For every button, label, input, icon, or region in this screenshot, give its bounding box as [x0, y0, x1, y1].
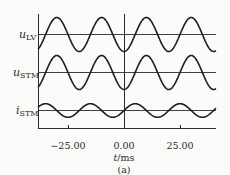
series-label-u-stm: uSTM [13, 67, 39, 80]
x-tick-label: 25.00 [166, 140, 193, 151]
x-tick-label: −25.00 [50, 140, 85, 151]
series-label-i-stm: iSTM [16, 105, 39, 118]
x-axis-label: t/ms [114, 152, 135, 163]
figure-caption: (a) [117, 164, 130, 175]
series-label-u-lv: uLV [19, 29, 36, 42]
x-tick-label: 0.00 [113, 140, 134, 151]
